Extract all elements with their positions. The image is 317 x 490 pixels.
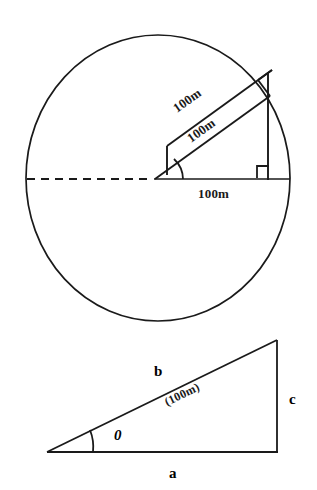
vertical-side-label: c <box>289 391 296 407</box>
figure-root: 100m 100m 100m b (100m) 0 c <box>0 0 317 490</box>
hypotenuse-value-label: (100m) <box>162 380 202 409</box>
geometry-diagram-svg: 100m 100m 100m b (100m) 0 c <box>0 0 317 490</box>
hypotenuse-label: b <box>154 363 162 379</box>
upper-rod-length-label: 100m <box>170 85 204 115</box>
rod-right-cap-upper <box>258 70 272 80</box>
triangle-angle-arc <box>90 430 93 452</box>
triangle-figure-group: b (100m) 0 c a <box>47 340 296 481</box>
base-side-label: a <box>169 465 177 481</box>
circle-figure-group: 100m 100m 100m <box>26 35 290 321</box>
lower-rod-length-label: 100m <box>184 115 218 145</box>
angle-theta-label: 0 <box>114 427 122 443</box>
base-length-label: 100m <box>198 186 229 201</box>
lower-rod-lower-edge <box>155 96 270 179</box>
